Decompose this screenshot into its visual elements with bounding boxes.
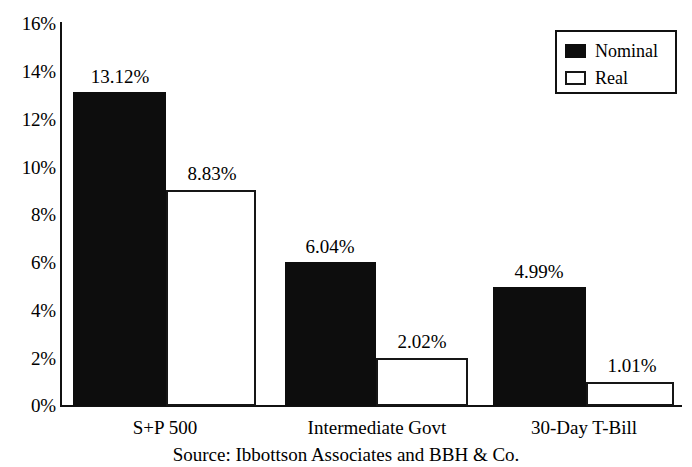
legend-entry-nominal: Nominal — [565, 37, 675, 64]
value-label-nominal-sp500: 13.12% — [91, 67, 150, 86]
value-label-nominal-intermediate-govt: 6.04% — [305, 237, 354, 256]
value-label-nominal-30day-tbill: 4.99% — [514, 262, 563, 281]
category-label-intermediate-govt: Intermediate Govt — [308, 417, 447, 438]
value-label-real-30day-tbill: 1.01% — [607, 356, 656, 375]
legend-swatch-real-icon — [565, 71, 586, 85]
bar-nominal-sp500 — [73, 92, 166, 406]
chart-legend: Nominal Real — [555, 30, 677, 94]
source-note: Source: Ibbottson Associates and BBH & C… — [173, 444, 520, 465]
bar-nominal-intermediate-govt — [285, 262, 376, 406]
bar-chart: 16% 14% 12% 10% 8% 6% 4% 2% 0% 13.12% 8.… — [0, 0, 692, 467]
legend-swatch-nominal-icon — [565, 44, 586, 58]
value-label-real-intermediate-govt: 2.02% — [397, 332, 446, 351]
legend-label-real: Real — [595, 69, 628, 87]
bar-real-sp500 — [166, 190, 256, 406]
category-label-sp500: S+P 500 — [133, 417, 197, 438]
bar-nominal-30day-tbill — [493, 287, 586, 406]
value-label-real-sp500: 8.83% — [187, 164, 236, 183]
legend-label-nominal: Nominal — [595, 42, 658, 60]
bar-real-30day-tbill — [586, 382, 674, 406]
bar-real-intermediate-govt — [376, 358, 468, 406]
legend-entry-real: Real — [565, 64, 675, 91]
category-label-30day-tbill: 30-Day T-Bill — [531, 417, 637, 438]
